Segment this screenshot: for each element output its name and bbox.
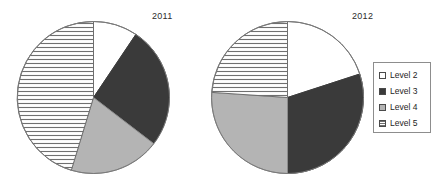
legend-label: Level 2	[390, 70, 417, 80]
pie-slice-level-5	[212, 22, 288, 98]
legend-item-level-2[interactable]: Level 2	[379, 67, 426, 83]
legend-item-level-3[interactable]: Level 3	[379, 83, 426, 99]
black-square-icon	[379, 88, 386, 95]
pie-slices-2011	[17, 21, 169, 173]
white-square-icon	[379, 72, 386, 79]
chart-legend: Level 2 Level 3 Level 4 Level 5	[373, 62, 431, 133]
legend-item-level-5[interactable]: Level 5	[379, 115, 426, 131]
legend-label: Level 3	[390, 86, 417, 96]
hatched-square-icon	[379, 120, 386, 127]
gray-square-icon	[379, 104, 386, 111]
legend-label: Level 4	[390, 102, 417, 112]
pie-chart-figure: 2011 2012	[0, 0, 442, 193]
pie-chart-2011	[14, 18, 174, 178]
pie-chart-2012	[208, 18, 368, 178]
pie-slice-level-4	[212, 92, 288, 173]
pie-slices-2012	[212, 21, 364, 173]
legend-item-level-4[interactable]: Level 4	[379, 99, 426, 115]
legend-label: Level 5	[390, 118, 417, 128]
